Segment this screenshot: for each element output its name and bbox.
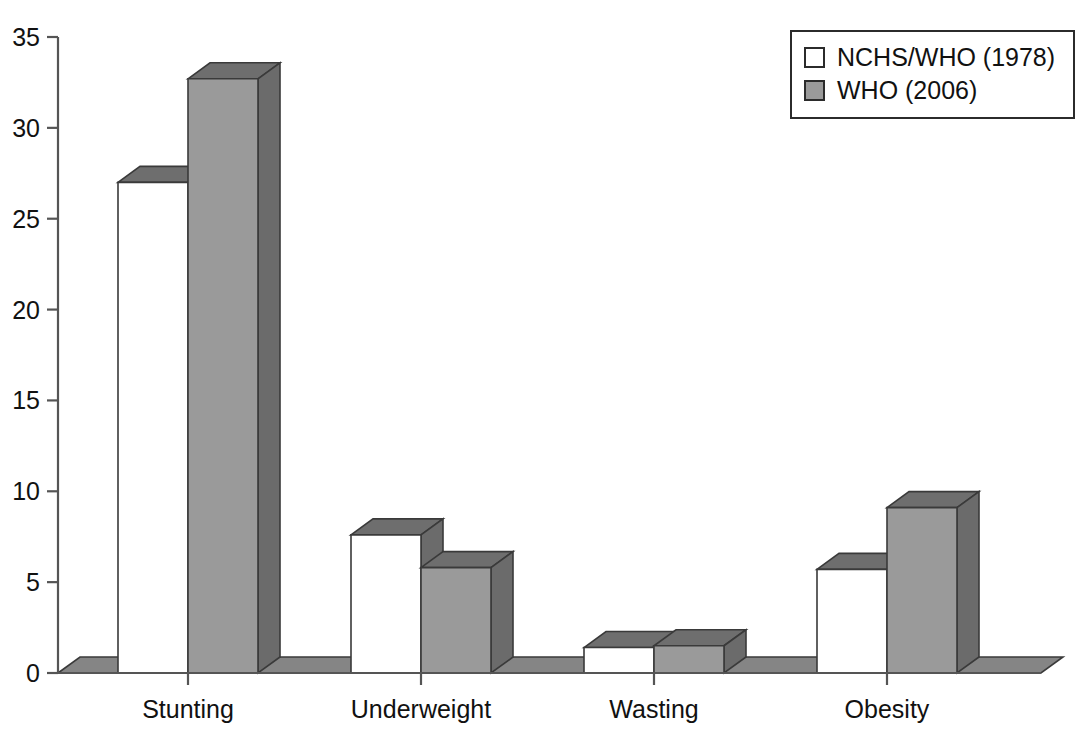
x-axis-category-label: Wasting bbox=[609, 697, 698, 722]
bar-front-face bbox=[817, 569, 887, 673]
y-axis-tick-label: 5 bbox=[26, 570, 40, 595]
bar-chart: 05101520253035 StuntingUnderweightWastin… bbox=[0, 0, 1089, 746]
y-axis-tick-label: 0 bbox=[26, 661, 40, 686]
bar-front-face bbox=[584, 648, 654, 673]
x-axis-category-label: Stunting bbox=[142, 697, 234, 722]
bar-side-face bbox=[957, 492, 979, 673]
bar-front-face bbox=[887, 508, 957, 673]
bar-front-face bbox=[654, 646, 724, 673]
bar-side-face bbox=[491, 552, 513, 673]
y-axis-tick-label: 25 bbox=[12, 206, 40, 231]
bar-front-face bbox=[188, 79, 258, 673]
bar-obesity-series-2 bbox=[887, 492, 979, 673]
bar-front-face bbox=[351, 535, 421, 673]
legend: NCHS/WHO (1978) WHO (2006) bbox=[790, 30, 1075, 119]
x-axis-category-label: Obesity bbox=[845, 697, 930, 722]
legend-entry-series-one: NCHS/WHO (1978) bbox=[804, 41, 1059, 74]
bar-side-face bbox=[258, 63, 280, 673]
y-axis-tick-label: 10 bbox=[12, 479, 40, 504]
y-axis-tick-label: 35 bbox=[12, 25, 40, 50]
legend-swatch-icon bbox=[804, 80, 825, 101]
y-axis-tick-label: 15 bbox=[12, 388, 40, 413]
legend-swatch-icon bbox=[804, 47, 825, 68]
bar-front-face bbox=[421, 568, 491, 673]
bar-underweight-series-2 bbox=[421, 552, 513, 673]
legend-label-series-one: NCHS/WHO (1978) bbox=[837, 45, 1055, 70]
bars-layer bbox=[118, 63, 979, 673]
legend-entry-series-two: WHO (2006) bbox=[804, 74, 1059, 107]
bar-stunting-series-2 bbox=[188, 63, 280, 673]
y-axis-tick-label: 20 bbox=[12, 297, 40, 322]
legend-label-series-two: WHO (2006) bbox=[837, 78, 977, 103]
y-axis-tick-label: 30 bbox=[12, 115, 40, 140]
bar-wasting-series-2 bbox=[654, 630, 746, 673]
bar-front-face bbox=[118, 182, 188, 673]
x-axis-category-label: Underweight bbox=[351, 697, 491, 722]
